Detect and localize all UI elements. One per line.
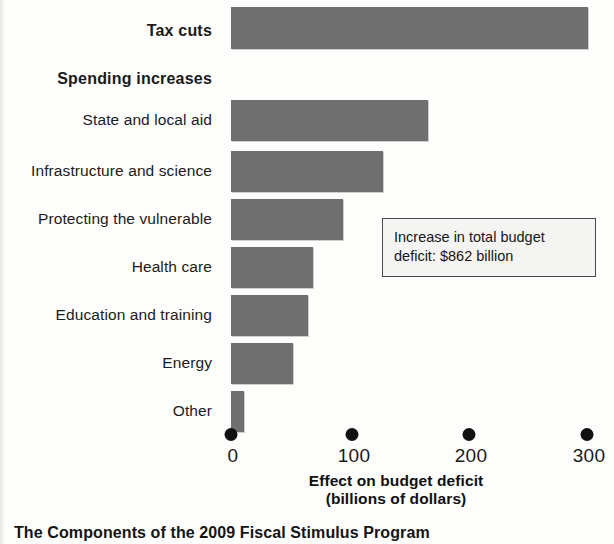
category-label-energy: Energy <box>0 340 212 386</box>
category-label-protecting-the-vulnerable: Protecting the vulnerable <box>0 196 212 242</box>
bar-education-and-training <box>231 295 308 336</box>
category-label-education-and-training: Education and training <box>0 292 212 338</box>
bar-protecting-the-vulnerable <box>231 199 343 240</box>
x-tick-dot-0 <box>225 428 238 441</box>
category-label-tax-cuts: Tax cuts <box>0 8 212 54</box>
category-label-state-and-local-aid: State and local aid <box>0 97 212 143</box>
bar-state-and-local-aid <box>231 100 428 141</box>
bar-health-care <box>231 247 313 288</box>
x-axis-title-line-1: Effect on budget deficit <box>231 472 561 490</box>
x-tick-dot-200 <box>463 428 476 441</box>
chart-row-group-heading: Spending increases <box>0 56 614 102</box>
category-label-health-care: Health care <box>0 244 212 290</box>
annotation-callout: Increase in total budget deficit: $862 b… <box>382 218 596 277</box>
x-axis-title: Effect on budget deficit (billions of do… <box>231 472 561 508</box>
group-heading-spending-increases: Spending increases <box>0 56 212 102</box>
annotation-line-2: deficit: $862 billion <box>394 247 585 266</box>
plot-area: Tax cuts Spending increases State and lo… <box>0 0 614 450</box>
annotation-line-1: Increase in total budget <box>394 228 585 247</box>
category-label-infrastructure-and-science: Infrastructure and science <box>0 148 212 194</box>
x-tick-dot-300 <box>581 428 594 441</box>
bar-chart-figure: Tax cuts Spending increases State and lo… <box>0 0 614 544</box>
bar-tax-cuts <box>231 7 588 49</box>
x-tick-label-100: 100 <box>338 445 371 467</box>
bar-energy <box>231 343 293 384</box>
bar-other <box>231 391 244 432</box>
bar-infrastructure-and-science <box>231 151 383 192</box>
figure-caption: The Components of the 2009 Fiscal Stimul… <box>14 524 604 544</box>
x-tick-label-200: 200 <box>455 445 488 467</box>
x-tick-label-0: 0 <box>228 445 239 467</box>
x-tick-label-300: 300 <box>573 445 606 467</box>
x-axis-title-line-2: (billions of dollars) <box>231 490 561 508</box>
x-tick-dot-100 <box>346 428 359 441</box>
chart-row: Energy <box>0 340 614 386</box>
